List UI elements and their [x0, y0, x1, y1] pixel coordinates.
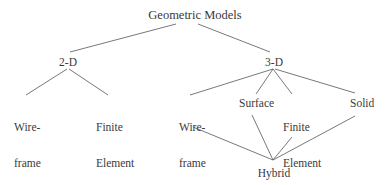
edge-3d-wireframe: [190, 69, 273, 95]
node-3d-label: 3-D: [265, 56, 283, 68]
node-2d-fem: Finite Element Mesh: [96, 97, 134, 185]
edge-surface-hybrid: [252, 115, 273, 160]
node-3d-surface: Surface: [239, 97, 274, 109]
node-3d-wireframe: Wire- frame: [179, 97, 206, 181]
node-hybrid: Hybrid: [258, 167, 291, 179]
node-2d-wireframe-line2: frame: [14, 157, 41, 169]
node-2d-wireframe-line1: Wire-: [14, 121, 41, 133]
node-2d-fem-line2: Element: [96, 157, 134, 169]
root-node-label: Geometric Models: [148, 9, 241, 21]
edge-2d-fem: [69, 69, 108, 95]
edge-3d-fem: [273, 69, 292, 94]
node-2d-fem-line1: Finite: [96, 121, 134, 133]
node-3d-solid: Solid: [350, 97, 374, 109]
edge-root-2d: [70, 24, 176, 52]
node-2d-wireframe: Wire- frame: [14, 97, 41, 181]
edge-root-3d: [198, 24, 270, 52]
node-3d-wireframe-line1: Wire-: [179, 121, 206, 133]
edge-3d-solid: [275, 69, 355, 93]
node-3d-wireframe-line2: frame: [179, 157, 206, 169]
node-3d-fem-line1: Finite: [283, 121, 321, 133]
edge-3d-surface: [256, 69, 273, 94]
edge-2d-wireframe: [26, 69, 67, 95]
node-2d-label: 2-D: [59, 56, 77, 68]
